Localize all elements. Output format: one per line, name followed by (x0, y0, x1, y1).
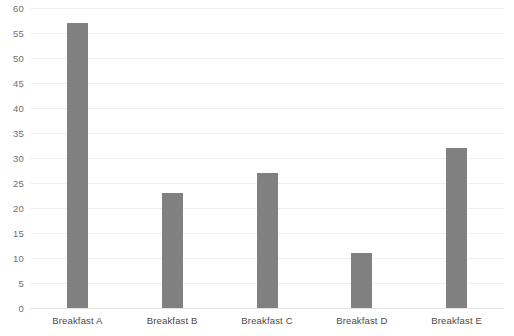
y-tick-label: 40 (13, 103, 24, 114)
y-tick-label: 10 (13, 253, 24, 264)
bars (30, 8, 504, 308)
bar (162, 193, 183, 308)
bar-chart: 051015202530354045505560 Breakfast ABrea… (0, 0, 514, 336)
y-tick-label: 60 (13, 3, 24, 14)
plot-area (30, 8, 504, 308)
y-tick-label: 50 (13, 53, 24, 64)
x-tick-label: Breakfast A (52, 315, 102, 326)
axis-baseline (30, 308, 504, 309)
y-tick-label: 45 (13, 78, 24, 89)
y-tick-label: 15 (13, 228, 24, 239)
y-axis: 051015202530354045505560 (0, 0, 28, 336)
y-tick-label: 5 (19, 278, 24, 289)
bar (351, 253, 372, 308)
y-tick-label: 0 (19, 303, 24, 314)
x-tick-label: Breakfast E (431, 315, 482, 326)
x-tick-label: Breakfast D (336, 315, 387, 326)
x-tick-label: Breakfast C (241, 315, 292, 326)
y-tick-label: 55 (13, 28, 24, 39)
y-tick-label: 35 (13, 128, 24, 139)
x-tick-label: Breakfast B (147, 315, 198, 326)
y-tick-label: 20 (13, 203, 24, 214)
bar (67, 23, 88, 308)
bar (257, 173, 278, 308)
y-tick-label: 30 (13, 153, 24, 164)
x-axis: Breakfast ABreakfast BBreakfast CBreakfa… (30, 312, 504, 336)
y-tick-label: 25 (13, 178, 24, 189)
bar (446, 148, 467, 308)
